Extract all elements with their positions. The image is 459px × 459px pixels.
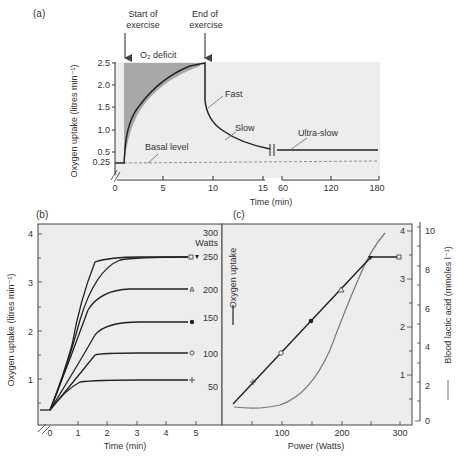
- panel-b: (b) 4 3 2 1 0: [6, 209, 222, 451]
- panel-c: (c) Oxygen uptake 100 200 300 Power (Wat…: [222, 209, 453, 451]
- watts-tick: 250: [203, 252, 218, 262]
- lactate-tick: 4: [425, 342, 430, 352]
- y-tick: 1.5: [97, 102, 110, 112]
- x-tick: 5: [160, 183, 165, 193]
- o2-tick: 1: [400, 370, 405, 380]
- ultra-slow-label: Ultra-slow: [298, 128, 339, 138]
- x-tick: 2: [104, 428, 109, 438]
- x-tick: 10: [208, 183, 218, 193]
- end-exercise-label-2: exercise: [189, 20, 223, 30]
- panel-a: (a) 2.5 2.0 1.5 1.0 0.5: [33, 8, 385, 207]
- lactate-tick: 2: [425, 381, 430, 391]
- y-tick: 2.5: [97, 58, 110, 68]
- y-tick: 4: [28, 229, 33, 239]
- x-tick: 1: [75, 428, 80, 438]
- panel-b-ylabel: Oxygen uptake (litres min⁻¹): [6, 273, 16, 386]
- start-exercise-label-2: exercise: [126, 20, 160, 30]
- panel-c-plot-bg: [222, 224, 412, 425]
- watts-tick: 200: [203, 285, 218, 295]
- y-tick: 0.25: [92, 157, 110, 167]
- panel-b-plot-bg: [38, 224, 222, 425]
- panel-b-xlabel: Time (min): [104, 441, 147, 451]
- o2-tick: 2: [400, 322, 405, 332]
- watts-tick: 50: [208, 382, 218, 392]
- y-tick: 2.0: [97, 80, 110, 90]
- panel-a-label: (a): [33, 8, 45, 19]
- x-tick: 60: [278, 183, 288, 193]
- y-tick: 2: [28, 327, 33, 337]
- x-tick: 15: [258, 183, 268, 193]
- watts-tick: 100: [203, 349, 218, 359]
- lactate-tick: 0: [425, 416, 430, 426]
- watts-tick: 300: [203, 228, 218, 238]
- x-tick: 0: [47, 428, 52, 438]
- y-tick: 1.0: [97, 125, 110, 135]
- panel-c-xlabel: Power (Watts): [288, 441, 345, 451]
- lactate-tick: 6: [425, 304, 430, 314]
- x-tick: 120: [323, 183, 338, 193]
- fast-label: Fast: [225, 89, 243, 99]
- x-tick: 100: [274, 428, 289, 438]
- x-tick: 200: [334, 428, 349, 438]
- panel-c-ylabel-right: Blood lactic acid (mmoles l⁻¹): [443, 246, 453, 364]
- watts-tick: 150: [203, 313, 218, 323]
- panel-c-label: (c): [233, 209, 245, 220]
- y-tick: 3: [28, 278, 33, 288]
- basal-level-label: Basal level: [145, 142, 189, 152]
- slow-label: Slow: [235, 123, 255, 133]
- filled-circle-marker-icon: [190, 320, 194, 324]
- panel-b-label: (b): [36, 209, 48, 220]
- x-tick: 300: [392, 428, 407, 438]
- x-tick: 180: [369, 183, 384, 193]
- o2-deficit-label: O₂ deficit: [140, 50, 177, 60]
- filled-circle-marker-icon: [309, 319, 314, 324]
- start-exercise-label-1: Start of: [128, 9, 158, 19]
- y-tick: 0.5: [97, 147, 110, 157]
- y-tick: 1: [28, 375, 33, 385]
- panel-a-ylabel: Oxygen uptake (litres min⁻¹): [69, 64, 79, 177]
- lactate-tick: 8: [425, 265, 430, 275]
- square-marker-icon: [397, 255, 401, 259]
- lactate-tick: 10: [425, 226, 435, 236]
- panel-a-xlabel: Time (min): [250, 197, 293, 207]
- x-tick: 0: [112, 183, 117, 193]
- end-exercise-label-1: End of: [192, 9, 219, 19]
- watts-label: Watts: [195, 238, 218, 248]
- panel-c-ylabel-left: Oxygen uptake: [228, 248, 238, 309]
- x-tick: 4: [163, 428, 168, 438]
- o2-tick: 4: [400, 226, 405, 236]
- open-circle-marker-icon: [279, 351, 283, 355]
- x-tick: 3: [134, 428, 139, 438]
- x-tick: 5: [193, 428, 198, 438]
- o2-tick: 3: [400, 274, 405, 284]
